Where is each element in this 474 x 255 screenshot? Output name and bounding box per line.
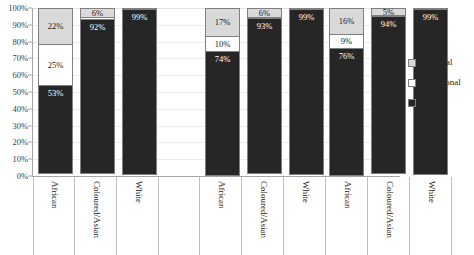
x-category-label: African <box>342 181 351 208</box>
bar-segment-label: 9% <box>341 37 352 46</box>
bar-segment-label: 99% <box>423 13 439 22</box>
y-tick-mark <box>28 75 32 76</box>
bar-segment-label: 93% <box>257 22 273 31</box>
y-axis: 100% 90% 80% 70% 60% 50% 40% 30% 20% 10%… <box>0 8 30 176</box>
y-tick-label: 30% <box>12 121 28 130</box>
y-tick-mark <box>28 58 32 59</box>
legend-label: Informal <box>421 58 453 67</box>
x-category-label: Coloured/Asian <box>91 181 100 238</box>
stacked-bar[interactable]: 99% <box>289 8 324 176</box>
bar-segment-informal[interactable]: 17% <box>205 8 240 37</box>
bar-segment-label: 6% <box>92 9 103 18</box>
stacked-bar[interactable]: 16% 9% 76% <box>329 8 364 176</box>
y-tick-mark <box>28 8 32 9</box>
bar-segment-label: 6% <box>259 9 270 18</box>
bar-segment-formal[interactable]: 93% <box>247 18 282 174</box>
bar-segment-label: 22% <box>48 22 64 31</box>
y-tick-label: 0% <box>17 172 28 181</box>
bar-segment-label: 10% <box>215 40 231 49</box>
y-tick-mark <box>28 159 32 160</box>
bar-segment-label: 16% <box>339 17 355 26</box>
legend-swatch-icon <box>408 79 416 87</box>
bar-segment-formal[interactable]: 92% <box>80 19 115 174</box>
y-tick-label: 80% <box>12 37 28 46</box>
x-category-cell: White <box>410 177 452 255</box>
stacked-bar-chart: 100% 90% 80% 70% 60% 50% 40% 30% 20% 10%… <box>0 0 474 255</box>
bar-segment-formal[interactable]: 76% <box>329 48 364 176</box>
y-tick-label: 90% <box>12 21 28 30</box>
bar-segment-formal[interactable]: 53% <box>38 85 73 174</box>
y-tick-mark <box>28 92 32 93</box>
stacked-bar[interactable]: 22% 25% 53% <box>38 8 73 176</box>
x-category-cell: White <box>117 177 159 255</box>
y-tick-mark <box>28 41 32 42</box>
y-tick-mark <box>28 108 32 109</box>
x-category-cell: African <box>33 177 75 255</box>
bar-segment-label: 99% <box>299 13 315 22</box>
stacked-bar[interactable]: 5% 94% <box>371 8 406 176</box>
x-category-cell: African <box>200 177 242 255</box>
legend-label: Formal <box>421 98 447 107</box>
stacked-bar[interactable]: 17% 10% 74% <box>205 8 240 176</box>
x-category-cell: Coloured/Asian <box>242 177 284 255</box>
bar-segment-informal[interactable]: 16% <box>329 8 364 35</box>
y-tick-mark <box>28 125 32 126</box>
bar-segment-label: 25% <box>48 61 64 70</box>
x-category-label: White <box>300 181 309 203</box>
x-category-cell: Coloured/Asian <box>75 177 117 255</box>
legend-swatch-icon <box>408 59 416 67</box>
legend-item-informal[interactable]: Informal <box>408 57 474 68</box>
x-category-cell-empty <box>159 177 200 255</box>
bar-segment-formal[interactable]: 99% <box>289 9 324 175</box>
x-category-label: White <box>133 181 142 203</box>
bar-segment-traditional[interactable]: 25% <box>38 44 73 86</box>
bar-segment-informal[interactable]: 22% <box>38 8 73 45</box>
y-tick-label: 60% <box>12 71 28 80</box>
bar-segment-traditional[interactable]: 10% <box>205 36 240 53</box>
bar-segment-label: 17% <box>215 18 231 27</box>
bar-segment-label: 76% <box>339 52 355 61</box>
y-tick-mark <box>28 142 32 143</box>
x-category-cell: White <box>284 177 326 255</box>
y-tick-label: 50% <box>12 88 28 97</box>
plot-area: 22% 25% 53% 6% 92% 99% <box>33 8 400 176</box>
y-tick-label: 70% <box>12 54 28 63</box>
chart-legend: Informal Traditional Formal <box>408 57 474 117</box>
stacked-bar[interactable]: 99% <box>122 8 157 176</box>
y-tick-label: 40% <box>12 105 28 114</box>
x-category-cell: African <box>326 177 368 255</box>
stacked-bar[interactable]: 6% 93% <box>247 8 282 176</box>
bar-segment-formal[interactable]: 99% <box>122 9 157 175</box>
bar-segment-label: 74% <box>215 55 231 64</box>
x-category-label: African <box>50 181 59 208</box>
bar-segment-label: 53% <box>48 89 64 98</box>
y-tick-label: 20% <box>12 138 28 147</box>
bar-segment-label: 94% <box>381 20 397 29</box>
y-tick-mark <box>28 24 32 25</box>
legend-label: Traditional <box>421 78 461 87</box>
x-category-label: Coloured/Asian <box>384 181 393 238</box>
bar-segment-traditional[interactable]: 9% <box>329 34 364 49</box>
stacked-bar[interactable]: 6% 92% <box>80 8 115 176</box>
legend-swatch-icon <box>408 99 416 107</box>
bar-segment-formal[interactable]: 74% <box>205 51 240 175</box>
x-category-cell: Coloured/Asian <box>368 177 410 255</box>
legend-item-traditional[interactable]: Traditional <box>408 77 474 88</box>
x-category-label: African <box>216 181 225 208</box>
bar-segment-formal[interactable]: 94% <box>371 16 406 174</box>
legend-item-formal[interactable]: Formal <box>408 97 474 108</box>
y-tick-label: 10% <box>12 155 28 164</box>
y-tick-label: 100% <box>8 4 28 13</box>
x-category-label: White <box>426 181 435 203</box>
bar-segment-label: 92% <box>90 23 106 32</box>
x-axis-category-labels: African Coloured/Asian White African Col… <box>33 177 400 255</box>
x-category-label: Coloured/Asian <box>258 181 267 238</box>
bar-segment-label: 99% <box>132 13 148 22</box>
